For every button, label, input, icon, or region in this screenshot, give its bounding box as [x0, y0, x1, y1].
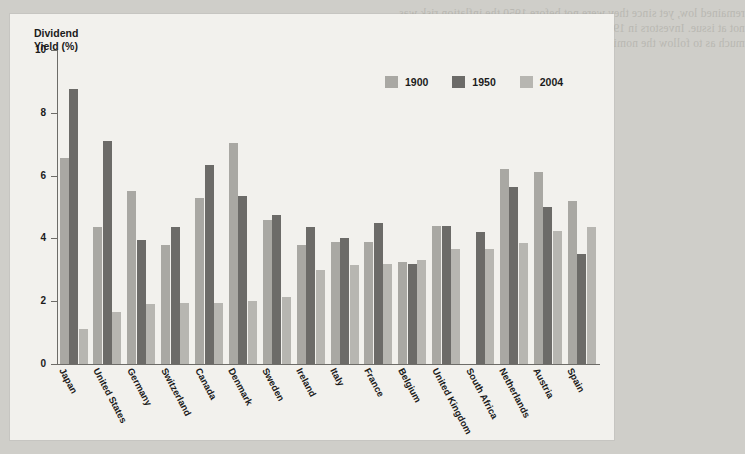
x-tick-label: Canada [193, 366, 219, 401]
legend-swatch [385, 76, 398, 88]
y-tick-mark [51, 50, 57, 51]
bar [364, 242, 373, 364]
bar [161, 245, 170, 364]
x-tick-label: United States [91, 366, 129, 425]
x-tick-label: Italy [328, 366, 347, 388]
bar [137, 240, 146, 364]
bar [238, 196, 247, 364]
bar [171, 227, 180, 364]
bar-group [466, 50, 497, 364]
legend-label: 1900 [405, 76, 428, 88]
bar-group [364, 50, 395, 364]
bar-group [297, 50, 328, 364]
bar-group [398, 50, 429, 364]
bar [205, 165, 214, 364]
x-tick-label: Austria [532, 366, 557, 400]
bar [577, 254, 586, 364]
y-tick-label: 10 [24, 44, 46, 55]
y-tick-label: 8 [24, 107, 46, 118]
legend-item: 1950 [452, 76, 495, 88]
bar-groups [58, 50, 600, 364]
bar [79, 329, 88, 364]
y-tick-mark [51, 113, 57, 114]
x-tick-label: Belgium [396, 366, 423, 404]
bar [553, 231, 562, 364]
x-tick-label: Denmark [227, 366, 256, 407]
bar [509, 187, 518, 364]
bar [146, 304, 155, 364]
x-tick-label: Netherlands [498, 366, 533, 420]
x-tick-label: Ireland [294, 366, 318, 399]
bar [519, 243, 528, 364]
legend-swatch [520, 76, 533, 88]
bar [350, 265, 359, 364]
bar [500, 169, 509, 364]
x-tick-label: Sweden [261, 366, 288, 403]
bar [568, 201, 577, 364]
bar [214, 303, 223, 364]
bar-group [568, 50, 599, 364]
chart-figure: Dividend Yield (%) 0246810 190019502004 … [10, 14, 614, 440]
bar [543, 207, 552, 364]
bar-group [93, 50, 124, 364]
y-tick-mark [51, 238, 57, 239]
x-axis-line [57, 364, 600, 365]
bar-group [60, 50, 91, 364]
chart-legend: 190019502004 [385, 76, 563, 88]
bar [398, 262, 407, 364]
bar [534, 172, 543, 364]
bar [127, 191, 136, 364]
bar [485, 249, 494, 364]
bar-group [331, 50, 362, 364]
x-tick-label: France [362, 366, 386, 399]
bar [112, 312, 121, 364]
y-tick-label: 4 [24, 232, 46, 243]
y-tick-mark [51, 364, 57, 365]
bar [69, 89, 78, 364]
legend-label: 2004 [540, 76, 563, 88]
bar-group [161, 50, 192, 364]
bar [306, 227, 315, 364]
legend-item: 2004 [520, 76, 563, 88]
bar-group [500, 50, 531, 364]
bar-group [534, 50, 565, 364]
bar [195, 198, 204, 364]
bar [417, 260, 426, 364]
bar [103, 141, 112, 364]
bar [442, 226, 451, 364]
x-tick-label: Spain [565, 366, 587, 394]
bar-group [127, 50, 158, 364]
legend-swatch [452, 76, 465, 88]
bar [316, 270, 325, 364]
bar [248, 301, 257, 364]
y-tick-mark [51, 301, 57, 302]
bar [297, 245, 306, 364]
bar [374, 223, 383, 364]
x-tick-label: Switzerland [159, 366, 193, 418]
bar-group [195, 50, 226, 364]
legend-item: 1900 [385, 76, 428, 88]
bar [331, 242, 340, 364]
y-tick-mark [51, 176, 57, 177]
bar [451, 249, 460, 364]
bar [476, 232, 485, 364]
x-axis-labels: JapanUnited StatesGermanySwitzerlandCana… [58, 366, 600, 454]
bar [587, 227, 596, 364]
y-tick-label: 0 [24, 358, 46, 369]
legend-label: 1950 [472, 76, 495, 88]
bar [272, 215, 281, 364]
x-tick-label: Japan [57, 366, 80, 395]
bar [60, 158, 69, 364]
bar [93, 227, 102, 364]
bar [383, 264, 392, 364]
bar [408, 264, 417, 364]
bar [282, 297, 291, 365]
bar [180, 303, 189, 364]
bar [229, 143, 238, 364]
bar [263, 220, 272, 364]
bar-group [229, 50, 260, 364]
x-tick-label: Germany [125, 366, 154, 408]
bar-group [263, 50, 294, 364]
bar-group [432, 50, 463, 364]
